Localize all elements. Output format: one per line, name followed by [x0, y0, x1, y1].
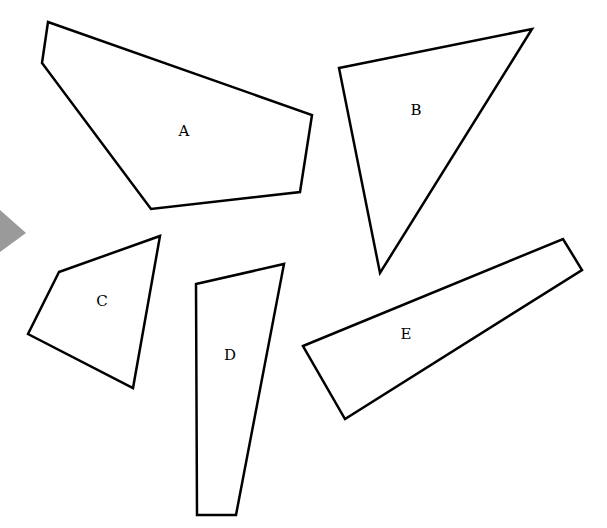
polygon-e — [303, 239, 582, 419]
label-c: C — [96, 292, 107, 310]
label-a: A — [178, 122, 190, 140]
pointer-arrow-icon — [0, 210, 26, 252]
shape-a: A — [42, 22, 312, 209]
shape-c: C — [28, 236, 160, 388]
polygon-c — [28, 236, 160, 388]
shapes-diagram: A B C D E — [0, 0, 607, 528]
polygon-d — [196, 264, 284, 515]
shape-b: B — [339, 29, 532, 273]
polygon-a — [42, 22, 312, 209]
label-e: E — [401, 325, 412, 343]
shape-e: E — [303, 239, 582, 419]
label-b: B — [410, 101, 421, 119]
polygon-b — [339, 29, 532, 273]
shape-d: D — [196, 264, 284, 515]
label-d: D — [224, 346, 236, 364]
